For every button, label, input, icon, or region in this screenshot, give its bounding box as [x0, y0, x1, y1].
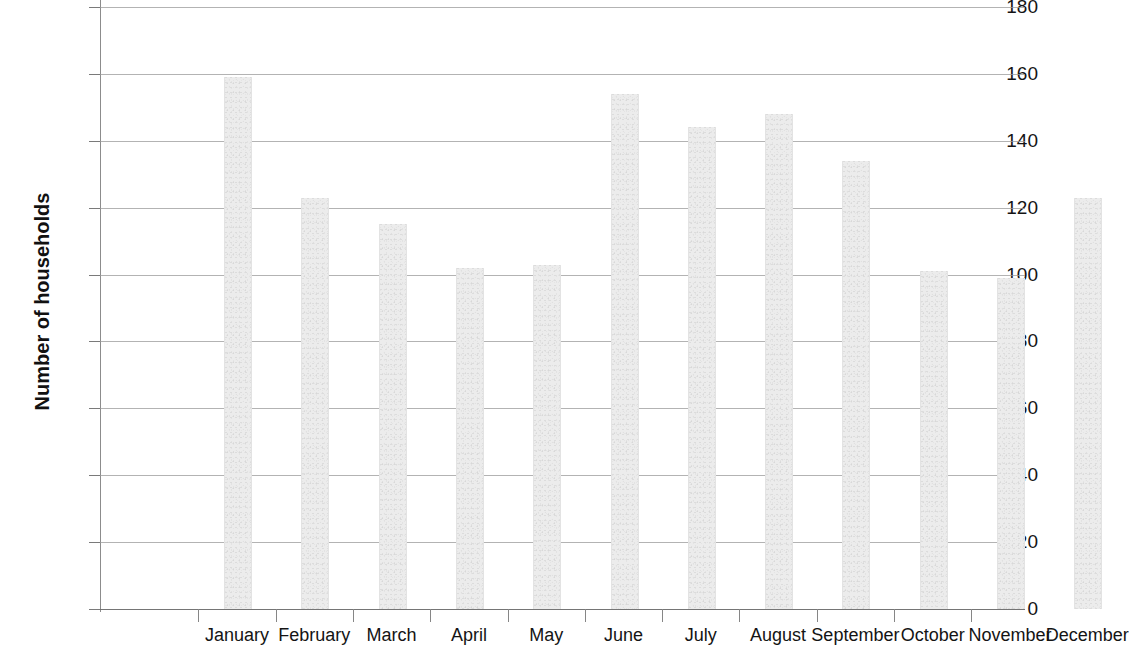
y-axis-title: Number of households [31, 172, 54, 432]
y-tick-mark-180 [89, 7, 100, 8]
x-tick-mark [198, 609, 199, 622]
bar [765, 114, 793, 609]
x-tick-label: September [811, 625, 899, 646]
y-tick-mark-100 [89, 275, 100, 276]
x-tick-label: August [750, 625, 806, 646]
y-tick-mark-140 [89, 141, 100, 142]
x-tick-mark [353, 609, 354, 622]
x-tick-label: October [901, 625, 965, 646]
bar [456, 268, 484, 609]
x-tick-mark [971, 609, 972, 622]
x-tick-label: January [205, 625, 269, 646]
bar [301, 198, 329, 609]
bar [688, 127, 716, 609]
x-tick-label: December [1046, 625, 1129, 646]
x-tick-mark [508, 609, 509, 622]
plot-area: JanuaryFebruaryMarchAprilMayJuneJulyAugu… [100, 7, 1025, 609]
bar [379, 224, 407, 609]
y-tick-mark-0 [89, 609, 100, 610]
x-tick-mark [662, 609, 663, 622]
bar [611, 94, 639, 609]
x-tick-mark [894, 609, 895, 622]
x-tick-label: May [529, 625, 563, 646]
x-tick-label: July [685, 625, 717, 646]
bar [842, 161, 870, 609]
x-tick-mark [817, 609, 818, 622]
x-tick-mark [276, 609, 277, 622]
x-tick-label: March [367, 625, 417, 646]
gridline-0 [100, 609, 1025, 610]
y-tick-mark-60 [89, 408, 100, 409]
x-tick-mark [430, 609, 431, 622]
y-tick-mark-120 [89, 208, 100, 209]
gridline-180 [100, 7, 1025, 8]
bar [997, 278, 1025, 609]
x-tick-mark [739, 609, 740, 622]
x-tick-label: June [604, 625, 643, 646]
y-tick-mark-40 [89, 475, 100, 476]
bar [224, 77, 252, 609]
y-tick-mark-160 [89, 74, 100, 75]
gridline-160 [100, 74, 1025, 75]
bar [533, 265, 561, 609]
y-tick-mark-80 [89, 341, 100, 342]
x-tick-label: April [451, 625, 487, 646]
x-tick-mark [585, 609, 586, 622]
y-tick-mark-20 [89, 542, 100, 543]
bar [1074, 198, 1102, 609]
bar [920, 271, 948, 609]
x-tick-label: February [278, 625, 350, 646]
x-tick-label: November [968, 625, 1051, 646]
